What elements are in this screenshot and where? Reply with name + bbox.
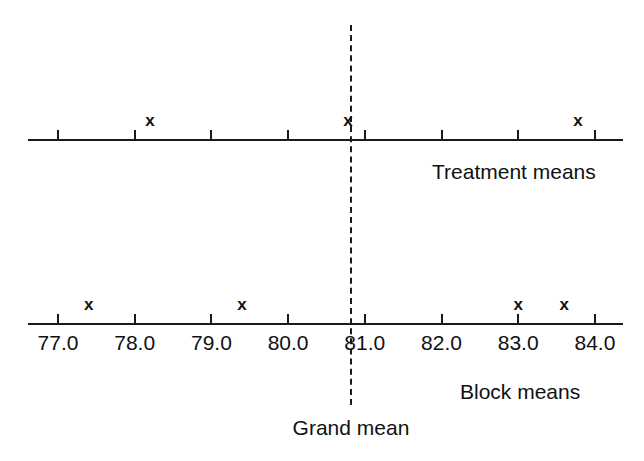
block-mean-marker-3: x (513, 296, 522, 313)
treatment-mean-marker-2: x (343, 112, 352, 129)
treatment-tick-80.0 (287, 130, 289, 139)
treatment-means-label: Treatment means (432, 161, 596, 182)
block-tick-82.0 (441, 314, 443, 323)
axis-tick-label-81.0: 81.0 (344, 332, 385, 353)
block-mean-marker-1: x (84, 296, 93, 313)
treatment-tick-81.0 (364, 130, 366, 139)
treatment-tick-83.0 (517, 130, 519, 139)
axis-tick-label-84.0: 84.0 (574, 332, 615, 353)
block-mean-marker-4: x (559, 296, 568, 313)
block-tick-78.0 (134, 314, 136, 323)
block-means-axis (28, 323, 623, 325)
treatment-tick-82.0 (441, 130, 443, 139)
block-tick-80.0 (287, 314, 289, 323)
grand-mean-label: Grand mean (293, 417, 410, 438)
block-tick-84.0 (594, 314, 596, 323)
axis-tick-label-79.0: 79.0 (191, 332, 232, 353)
treatment-tick-78.0 (134, 130, 136, 139)
axis-tick-label-78.0: 78.0 (114, 332, 155, 353)
block-tick-81.0 (364, 314, 366, 323)
block-means-label: Block means (460, 381, 580, 402)
axis-tick-label-82.0: 82.0 (421, 332, 462, 353)
treatment-tick-77.0 (57, 130, 59, 139)
treatment-tick-84.0 (594, 130, 596, 139)
block-tick-79.0 (210, 314, 212, 323)
treatment-mean-marker-3: x (573, 112, 582, 129)
treatment-mean-marker-1: x (145, 112, 154, 129)
treatment-means-axis (28, 139, 623, 141)
block-tick-83.0 (517, 314, 519, 323)
axis-tick-label-77.0: 77.0 (38, 332, 79, 353)
axis-tick-label-83.0: 83.0 (498, 332, 539, 353)
treatment-tick-79.0 (210, 130, 212, 139)
block-tick-77.0 (57, 314, 59, 323)
axis-tick-label-80.0: 80.0 (268, 332, 309, 353)
anova-dotplot-figure: xxx Treatment means xxxx 77.078.079.080.… (0, 0, 644, 461)
block-mean-marker-2: x (237, 296, 246, 313)
